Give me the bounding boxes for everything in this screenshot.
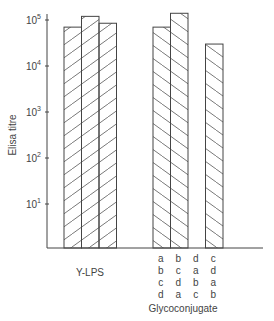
bars — [64, 13, 223, 248]
bar-y-lps-3 — [99, 23, 117, 248]
group-label-glycoconjugate: Glycoconjugate — [149, 303, 218, 314]
bar-sublabel: d — [175, 277, 181, 288]
bar-sublabel: d — [210, 265, 216, 276]
bar-sublabel: d — [158, 289, 164, 300]
bar-sublabel: b — [175, 253, 181, 264]
bar-sublabel: a — [210, 277, 216, 288]
bar-sublabel: d — [193, 253, 199, 264]
y-tick-label: 104 — [26, 59, 41, 72]
bar-sublabel: b — [210, 289, 216, 300]
y-tick-label: 103 — [26, 105, 41, 118]
y-ticks: 101102103104105 — [26, 13, 49, 210]
bar-glycoconjugate-2 — [171, 13, 189, 248]
y-axis-label: Elisa titre — [7, 114, 18, 156]
elisa-titre-bar-chart: 101102103104105 Y-LPSabcdbcdadabccdabGly… — [0, 0, 274, 321]
bar-sublabel: b — [193, 277, 199, 288]
bar-sublabel: b — [158, 265, 164, 276]
y-tick-label: 101 — [26, 197, 41, 210]
y-tick-label: 105 — [26, 13, 41, 26]
category-labels: Y-LPSabcdbcdadabccdabGlycoconjugate — [76, 253, 218, 314]
bar-glycoconjugate-1 — [153, 27, 171, 248]
bar-sublabel: a — [158, 253, 164, 264]
bar-sublabel: a — [193, 265, 199, 276]
y-tick-label: 102 — [26, 151, 41, 164]
bar-sublabel: c — [211, 253, 216, 264]
bar-y-lps-1 — [64, 27, 82, 248]
group-label-y-lps: Y-LPS — [76, 267, 104, 278]
bar-sublabel: c — [176, 265, 181, 276]
bar-sublabel: c — [193, 289, 198, 300]
bar-sublabel: c — [158, 277, 163, 288]
bar-y-lps-2 — [82, 16, 100, 248]
bar-sublabel: a — [175, 289, 181, 300]
bar-glycoconjugate-4 — [206, 44, 224, 248]
